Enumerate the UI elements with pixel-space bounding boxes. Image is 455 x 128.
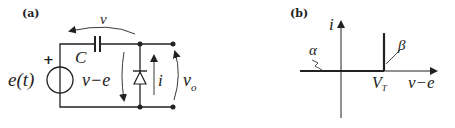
current-i-label: i [158,71,163,90]
cap-voltage-arrow [122,52,124,100]
voltage-v-arrow [70,27,135,34]
capacitor-icon [95,36,100,52]
cap-voltage-label: v−e [82,70,110,90]
capacitor-label: C [75,48,87,67]
panel-b-characteristic: (b) i v−e α β VT [290,7,436,118]
voltage-v-label: v [100,11,107,27]
y-axis-label: i [329,15,334,34]
panel-a-label: (a) [22,7,40,20]
beta-label: β [397,37,406,53]
output-voltage-label: vo [183,70,197,93]
figure: (a) C v + e(t) v−e [0,0,455,128]
voltage-source-icon [47,67,73,93]
threshold-label: VT [372,74,388,93]
source-label: e(t) [8,69,34,91]
panel-b-label: (b) [290,7,308,20]
diode-icon [133,71,147,84]
circuit-nodes [138,42,176,110]
x-axis-label: v−e [408,73,435,92]
alpha-label: α [309,42,318,58]
source-plus-sign: + [43,52,54,67]
alpha-pointer [312,60,322,70]
output-voltage-arrow [174,52,178,100]
panel-a-circuit: (a) C v + e(t) v−e [8,7,197,110]
